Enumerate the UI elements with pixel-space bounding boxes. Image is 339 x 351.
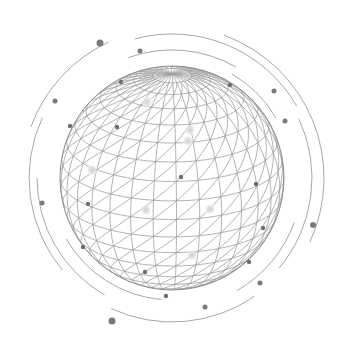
globe-node-dot bbox=[119, 80, 123, 84]
orbit-node-dot bbox=[203, 305, 208, 310]
globe-node-dot bbox=[179, 175, 183, 179]
globe-node-dot bbox=[164, 294, 168, 298]
orbit-node-dot bbox=[283, 119, 288, 124]
orbit-node-dot bbox=[138, 49, 143, 54]
glow-dot bbox=[141, 96, 153, 108]
orbit-node-dot bbox=[272, 89, 277, 94]
globe-node-dot bbox=[247, 260, 251, 264]
orbit-node-dot bbox=[310, 222, 316, 228]
globe-node-dot bbox=[228, 83, 232, 87]
glow-dot bbox=[204, 203, 216, 215]
orbit-node-dot bbox=[109, 318, 116, 325]
globe-node-dot bbox=[81, 245, 85, 249]
wireframe-globe-graphic bbox=[0, 0, 339, 351]
globe-illustration bbox=[0, 0, 339, 351]
globe-node-dot bbox=[68, 124, 72, 128]
orbit-node-dot bbox=[40, 201, 45, 206]
globe-node-dot bbox=[261, 226, 265, 230]
globe-node-dot bbox=[143, 270, 147, 274]
globe-mesh bbox=[60, 66, 284, 290]
orbit-node-dot bbox=[53, 99, 58, 104]
glow-dot bbox=[182, 135, 194, 147]
globe-node-dot bbox=[115, 125, 119, 129]
glow-dot bbox=[86, 164, 98, 176]
glow-dot bbox=[184, 124, 196, 136]
globe-node-dot bbox=[254, 182, 258, 186]
orbit-node-dot bbox=[97, 40, 104, 47]
glow-dot bbox=[186, 249, 198, 261]
orbit-node-dot bbox=[258, 281, 263, 286]
globe-node-dot bbox=[86, 202, 90, 206]
glow-dot bbox=[140, 204, 152, 216]
